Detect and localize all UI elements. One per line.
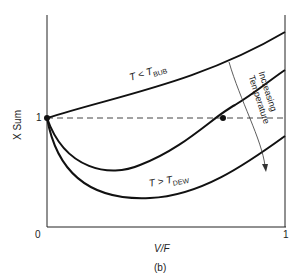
arrowhead-icon <box>262 164 268 172</box>
y-tick-1: 1 <box>36 112 42 123</box>
x-tick-0: 0 <box>35 229 41 240</box>
marker-crossing <box>220 115 226 121</box>
marker-origin <box>44 115 50 121</box>
y-axis-label: X Sum <box>12 110 23 140</box>
x-axis-label: V/F <box>154 243 170 254</box>
phase-chart <box>0 0 303 280</box>
x-tick-1: 1 <box>283 229 289 240</box>
figure-caption: (b) <box>154 262 166 273</box>
